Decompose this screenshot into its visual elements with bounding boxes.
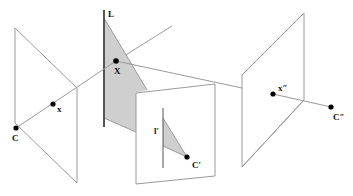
trifocal-diagram: L X C x l′ C′ x″ C″ (0, 0, 353, 196)
point-X (113, 58, 119, 64)
right-image-plane (242, 13, 304, 167)
label-C-double-prime: C″ (333, 112, 344, 122)
middle-image-plane (136, 84, 215, 184)
label-x: x (57, 104, 62, 114)
left-image-plane (15, 28, 77, 183)
point-C (13, 125, 18, 130)
point-x-double-prime (270, 91, 275, 96)
label-l-prime: l′ (154, 126, 159, 136)
label-C: C (12, 133, 19, 143)
point-C-prime (184, 154, 189, 159)
label-L: L (108, 9, 114, 19)
label-x-double-prime: x″ (278, 83, 288, 93)
label-X: X (114, 66, 121, 76)
label-C-prime: C′ (192, 160, 201, 170)
point-C-double-prime (328, 104, 333, 109)
point-x (50, 101, 55, 106)
